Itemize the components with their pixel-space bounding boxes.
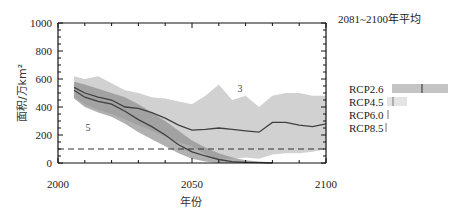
x-tick-2100: 2100	[315, 178, 338, 190]
annotation-5: 5	[86, 122, 91, 133]
y-tick-200: 200	[36, 129, 53, 141]
y-tick-0: 0	[47, 157, 53, 169]
x-axis-title: 年份	[180, 195, 202, 209]
y-tick-600: 600	[36, 73, 53, 85]
x-tick-2000: 2000	[47, 178, 70, 190]
legend-label-rcp45: RCP4.5	[349, 96, 384, 108]
x-tick-labels: 2000 2050 2100	[47, 178, 338, 190]
y-axis-title: 面积/万km²	[16, 64, 29, 122]
y-tick-labels: 0 200 400 600 800 1000	[30, 17, 53, 169]
uncertainty-bands	[74, 76, 326, 163]
legend-label-rcp85: RCP8.5	[349, 122, 384, 134]
y-tick-800: 800	[36, 45, 53, 57]
legend-title: 2081~2100年平均	[338, 12, 421, 25]
legend: RCP2.6 RCP4.5 RCP6.0 RCP8.5	[349, 83, 448, 134]
legend-label-rcp60: RCP6.0	[349, 109, 384, 121]
x-tick-2050: 2050	[181, 178, 204, 190]
annotation-3: 3	[238, 83, 243, 94]
chart: 0 200 400 600 800 1000 2000 2050 2100 年份…	[0, 0, 465, 218]
y-tick-400: 400	[36, 101, 53, 113]
y-tick-1000: 1000	[30, 17, 53, 29]
legend-bar-rcp45	[387, 97, 407, 106]
legend-label-rcp26: RCP2.6	[349, 83, 384, 95]
legend-bar-rcp26	[392, 84, 448, 93]
